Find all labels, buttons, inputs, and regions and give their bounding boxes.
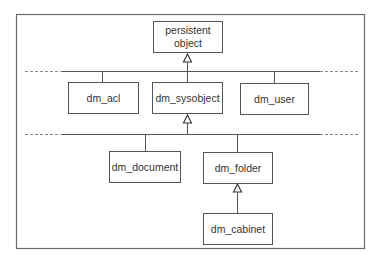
class-hierarchy-diagram: persistent object dm_acl dm_sysobject dm…: [0, 0, 377, 263]
class-box-dm-cabinet: dm_cabinet: [204, 214, 273, 245]
class-label: object: [174, 37, 202, 49]
class-label: dm_user: [254, 93, 295, 105]
class-box-dm-folder: dm_folder: [204, 153, 273, 184]
class-label: dm_cabinet: [211, 223, 265, 235]
class-label: dm_sysobject: [155, 92, 219, 104]
class-label: persistent: [165, 24, 211, 36]
class-box-persistent-object: persistent object: [154, 22, 223, 53]
class-label: dm_folder: [215, 162, 262, 174]
inheritance-arrow-icon: [184, 115, 192, 123]
class-box-dm-document: dm_document: [110, 152, 181, 183]
inheritance-arrow-icon: [184, 54, 192, 62]
class-box-dm-sysobject: dm_sysobject: [153, 83, 223, 114]
class-box-dm-acl: dm_acl: [69, 83, 139, 114]
class-box-dm-user: dm_user: [241, 84, 309, 115]
inheritance-arrow-icon: [234, 184, 242, 192]
class-label: dm_document: [112, 161, 179, 173]
class-label: dm_acl: [87, 92, 121, 104]
